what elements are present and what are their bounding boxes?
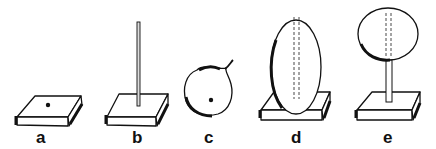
panel-e: e <box>356 8 420 147</box>
label-d: d <box>291 128 301 147</box>
label-a: a <box>36 128 46 147</box>
label-b: b <box>132 128 142 147</box>
label-e: e <box>383 128 392 147</box>
diagram-canvas: a b c <box>0 0 436 149</box>
label-c: c <box>204 128 213 147</box>
stem <box>225 60 233 69</box>
panel-d: d <box>260 17 330 147</box>
panel-c: c <box>184 60 233 147</box>
hole <box>46 103 50 107</box>
hole <box>209 98 213 102</box>
panel-b: b <box>106 22 168 147</box>
rod <box>137 22 140 106</box>
rod <box>386 60 392 102</box>
panel-a: a <box>16 96 82 147</box>
base-block <box>16 96 82 126</box>
